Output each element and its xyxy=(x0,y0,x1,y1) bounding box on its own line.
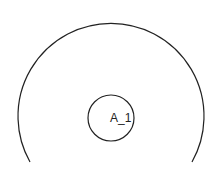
circle-label: A_1 xyxy=(110,111,132,125)
diagram-canvas: A_1 xyxy=(0,0,219,175)
